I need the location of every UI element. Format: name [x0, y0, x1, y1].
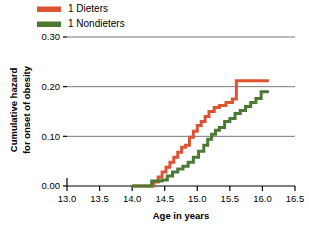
y-tick-label-0.00: 0.00 — [42, 180, 61, 191]
x-tick-label-14.5: 14.5 — [155, 193, 174, 204]
y-tick-label-0.30: 0.30 — [42, 31, 61, 42]
x-tick-label-15.5: 15.5 — [221, 193, 240, 204]
chart-figure: 1 Dieters1 Nondieters 0.000.100.200.30 1… — [0, 0, 309, 225]
y-tick-label-0.20: 0.20 — [42, 81, 61, 92]
x-tick-label-15.0: 15.0 — [188, 193, 207, 204]
legend-label-nondieters: 1 Nondieters — [68, 18, 125, 29]
legend-swatch-dieters — [37, 7, 61, 13]
x-tick-label-13.5: 13.5 — [90, 193, 109, 204]
legend-label-dieters: 1 Dieters — [68, 3, 108, 14]
x-axis-title: Age in years — [153, 210, 210, 221]
x-tick-label-13.0: 13.0 — [58, 193, 77, 204]
x-tick-label-16.5: 16.5 — [286, 193, 305, 204]
x-tick-label-14.0: 14.0 — [123, 193, 142, 204]
y-tick-label-0.10: 0.10 — [42, 131, 61, 142]
x-tick-label-16.0: 16.0 — [253, 193, 272, 204]
y-axis-title-line1: Cumulative hazard — [8, 68, 19, 153]
legend-swatch-nondieters — [37, 22, 61, 28]
cumulative-hazard-step-chart: 1 Dieters1 Nondieters 0.000.100.200.30 1… — [0, 0, 309, 225]
y-axis-title-line2: for onset of obesity — [21, 65, 32, 154]
